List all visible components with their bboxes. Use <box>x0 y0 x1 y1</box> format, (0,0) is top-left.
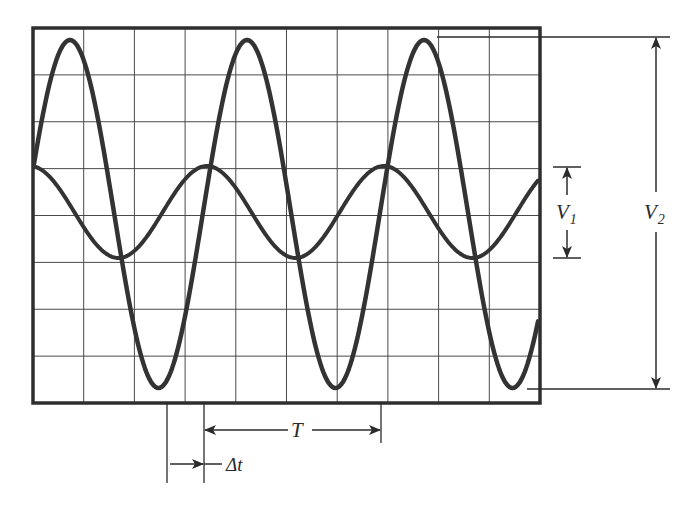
v2-amplitude-marker: V2 <box>437 37 670 389</box>
v1-amplitude-marker: V1 <box>553 167 581 258</box>
period-label: T <box>291 418 304 442</box>
v2-label: V2 <box>644 200 665 227</box>
screen-grid <box>33 28 540 403</box>
time-markers: T Δt <box>167 403 381 483</box>
delta-t-label: Δt <box>225 454 243 475</box>
oscilloscope-diagram: V1 V2 T Δt <box>0 0 691 509</box>
v1-label: V1 <box>556 200 577 227</box>
